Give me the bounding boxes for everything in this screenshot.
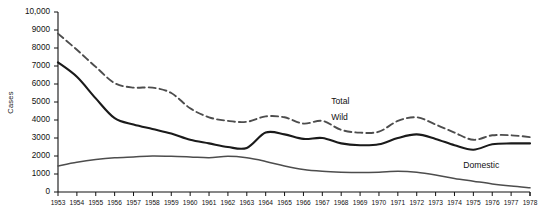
- axis-lines: [58, 12, 530, 192]
- axis-ticks: [54, 12, 530, 196]
- plot-area: [0, 0, 544, 211]
- series-line-wild: [58, 62, 530, 149]
- data-series-lines: [58, 34, 530, 188]
- line-chart: Cases 0100020003000400050006000700080009…: [0, 0, 544, 211]
- series-line-domestic: [58, 156, 530, 188]
